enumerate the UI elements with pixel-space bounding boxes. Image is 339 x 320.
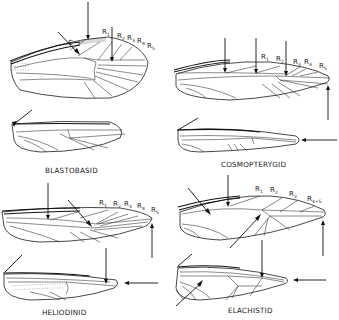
svg-text:R2: R2 (113, 200, 121, 209)
svg-text:R3: R3 (127, 34, 135, 43)
svg-text:R5: R5 (319, 62, 327, 71)
blastobasid-forewing (10, 37, 148, 98)
panel-elachistid: R1 R2 R3 R4+5 ELACHISTID (176, 175, 326, 315)
wing-venation-diagram: C R1 R2 R3 R4 R5 BLASTOBASID (0, 0, 339, 320)
svg-text:R4: R4 (304, 58, 312, 67)
heliodinid-hindwing (3, 273, 118, 300)
svg-text:R4+5: R4+5 (307, 195, 322, 204)
family-label-elachistid: ELACHISTID (228, 306, 273, 315)
svg-text:R2: R2 (270, 186, 278, 195)
svg-text:R4: R4 (137, 37, 145, 46)
svg-text:R5: R5 (151, 206, 159, 215)
arrow-diagonal (178, 118, 198, 130)
arrow-diagonal (178, 254, 192, 266)
blastobasid-hindwing (12, 121, 125, 152)
panel-cosmopterygid: R1 R2 R3 R4 R5 COSMOPTERYGID (174, 38, 337, 169)
family-label-heliodinid: HELIODINID (42, 308, 87, 317)
svg-text:R1: R1 (99, 199, 107, 208)
cosmopterygid-forewing (174, 60, 330, 100)
panel-blastobasid: C R1 R2 R3 R4 R5 BLASTOBASID (10, 2, 155, 175)
family-label-cosmopterygid: COSMOPTERYGID (221, 160, 286, 169)
elachistid-hindwing (176, 266, 288, 300)
svg-text:R2: R2 (117, 32, 125, 41)
svg-text:R3: R3 (293, 58, 301, 67)
svg-text:R1: R1 (261, 53, 269, 62)
cosmopterygid-hindwing (177, 129, 299, 152)
label-C: C (68, 39, 73, 47)
family-label-blastobasid: BLASTOBASID (45, 166, 98, 175)
svg-text:R3: R3 (289, 190, 297, 199)
heliodinid-forewing (2, 208, 152, 243)
svg-text:R2: R2 (276, 55, 284, 64)
arrow-diagonal (68, 200, 89, 224)
svg-text:R1: R1 (102, 28, 110, 37)
svg-text:R1: R1 (255, 185, 263, 194)
svg-text:R4: R4 (137, 202, 145, 211)
arrow-diagonal (230, 218, 258, 248)
arrow-diagonal (5, 255, 22, 272)
svg-text:R5: R5 (147, 42, 155, 51)
svg-text:R3: R3 (124, 200, 132, 209)
arrow-diagonal (14, 110, 32, 124)
panel-heliodinid: R1 R2 R3 R4 R5 HELIODINID (2, 183, 159, 317)
